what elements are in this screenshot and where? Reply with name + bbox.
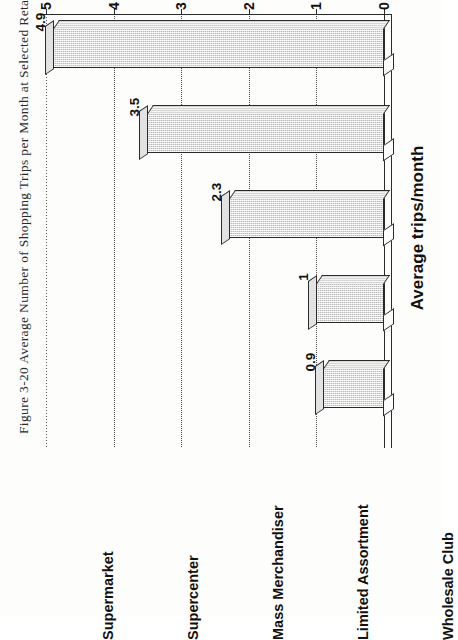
bar-front-face [53, 28, 384, 68]
category-label-wholesale-club: Wholesale Club [438, 470, 458, 640]
tick-label-4: 4 [106, 0, 122, 19]
bar-depth-face [53, 20, 390, 29]
value-label-4: 0.9 [302, 345, 318, 379]
category-label-supercenter: Supercenter [183, 470, 203, 640]
value-label-2: 2.3 [208, 175, 224, 209]
bar-supermarket[interactable] [44, 20, 384, 78]
bar-front-face [147, 113, 384, 153]
tick-label-3: 3 [173, 0, 189, 19]
plot-frame-top [44, 14, 392, 15]
bar-depth-face [229, 190, 391, 199]
figure-caption: Figure 3-20 Average Number of Shopping T… [13, 0, 35, 438]
bar-front-face [316, 283, 384, 323]
plot-area: 012345 4.93.52.310.9 [44, 14, 392, 448]
bar-front-face [229, 198, 384, 238]
category-label-limited-assortment: Limited Assortment [353, 470, 373, 640]
value-label-3: 1 [295, 260, 311, 294]
category-label-supermarket: Supermarket [98, 470, 118, 640]
tick-label-1: 1 [308, 0, 324, 19]
tick-label-2: 2 [241, 0, 257, 19]
bar-depth-face [316, 275, 390, 284]
bar-limited-assortment[interactable] [44, 275, 384, 333]
bar-supercenter[interactable] [44, 105, 384, 163]
value-axis-title: Average trips/month [405, 103, 431, 353]
value-label-0: 4.9 [32, 5, 48, 39]
bar-front-face [323, 368, 384, 408]
value-label-1: 3.5 [126, 90, 142, 124]
bar-wholesale-club[interactable] [44, 360, 384, 418]
bar-depth-face [147, 105, 390, 114]
bar-depth-face [323, 360, 390, 369]
category-label-mass-merchandiser: Mass Merchandiser [268, 470, 288, 640]
